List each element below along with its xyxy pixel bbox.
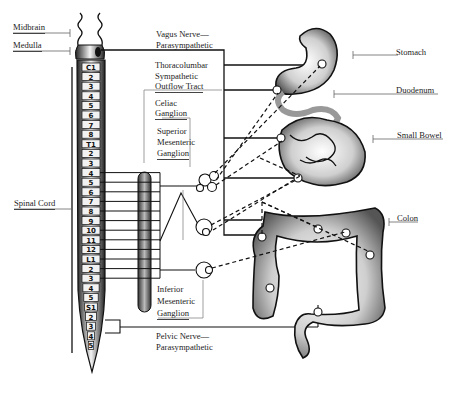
left-leaders bbox=[13, 29, 72, 209]
segment-label: 4 bbox=[89, 333, 94, 341]
small-bowel bbox=[279, 118, 365, 186]
segment-label: 3 bbox=[89, 83, 94, 91]
label-thoraco-line1: Thoracolumbar bbox=[155, 60, 208, 71]
diagram-canvas: C12345678T123456789101112L12345S12345 bbox=[0, 0, 455, 397]
label-inferior-line1: Inferior bbox=[157, 284, 183, 295]
label-superior-line3: Ganglion bbox=[157, 148, 189, 160]
label-midbrain: Midbrain bbox=[13, 22, 45, 34]
segment-label: 5 bbox=[89, 179, 94, 187]
stomach bbox=[276, 28, 337, 94]
segment-label: 2 bbox=[89, 266, 94, 274]
segment-label: 2 bbox=[89, 74, 94, 82]
segment-label: 3 bbox=[89, 160, 94, 168]
label-medulla: Medulla bbox=[13, 40, 42, 52]
label-colon: Colon bbox=[397, 213, 418, 224]
segment-label: 5 bbox=[89, 294, 94, 302]
anatomy-diagram: C12345678T123456789101112L12345S12345 bbox=[0, 0, 455, 397]
segment-label: 7 bbox=[89, 198, 94, 206]
label-thoraco-line3: Outflow Tract bbox=[155, 81, 203, 93]
segment-label: 6 bbox=[89, 189, 94, 197]
label-pelvic-line2: Parasympathetic bbox=[156, 342, 213, 353]
segment-label: S1 bbox=[86, 304, 96, 312]
label-superior-line2: Mesenteric bbox=[157, 137, 195, 148]
vertebral-segments: C12345678T123456789101112L12345S12345 bbox=[82, 63, 100, 350]
segment-label: T1 bbox=[86, 141, 96, 149]
segment-label: 4 bbox=[89, 285, 94, 293]
label-celiac-line2: Ganglion bbox=[155, 108, 187, 120]
vagus-nucleus bbox=[95, 47, 101, 57]
segment-label: 8 bbox=[89, 131, 94, 139]
ganglia bbox=[196, 172, 219, 279]
segment-label: 3 bbox=[89, 323, 94, 331]
label-superior-line1: Superior bbox=[157, 126, 187, 137]
label-vagus-line1: Vagus Nerve— bbox=[156, 29, 209, 40]
segment-label: L1 bbox=[86, 256, 95, 264]
segment-label: 10 bbox=[86, 227, 96, 235]
label-pelvic-line1: Pelvic Nerve— bbox=[156, 331, 209, 342]
segment-label: 8 bbox=[89, 208, 94, 216]
label-small-bowel: Small Bowel bbox=[397, 130, 442, 141]
segment-label: 12 bbox=[86, 246, 96, 254]
segment-label: 9 bbox=[89, 218, 94, 226]
segment-label: 6 bbox=[89, 112, 94, 120]
segment-label: 3 bbox=[89, 275, 94, 283]
label-stomach: Stomach bbox=[396, 47, 426, 58]
brainstem bbox=[78, 13, 103, 45]
label-duodenum: Duodenum bbox=[396, 85, 434, 96]
label-spinal-cord: Spinal Cord bbox=[14, 198, 55, 210]
label-inferior-line2: Mesenteric bbox=[157, 296, 195, 307]
segment-label: C1 bbox=[86, 64, 96, 72]
segment-label: 7 bbox=[89, 122, 94, 130]
segment-label: 2 bbox=[89, 314, 94, 322]
segment-label: 4 bbox=[89, 93, 94, 101]
vagus-nerve bbox=[101, 50, 305, 235]
segment-label: 5 bbox=[89, 342, 94, 350]
segment-label: 5 bbox=[89, 102, 94, 110]
label-inferior-line3: Ganglion bbox=[157, 308, 189, 320]
segment-label: 4 bbox=[89, 170, 94, 178]
segment-label: 2 bbox=[89, 150, 94, 158]
segment-label: 11 bbox=[86, 237, 96, 245]
label-vagus-line2: Parasympathetic bbox=[156, 40, 213, 51]
sympathetic-chain bbox=[138, 172, 151, 312]
